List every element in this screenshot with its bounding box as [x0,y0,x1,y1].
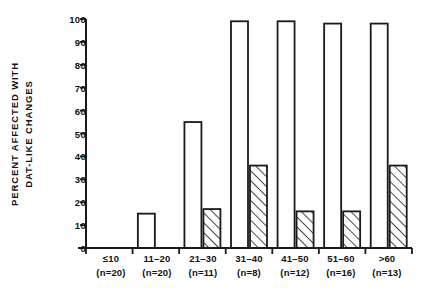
y-axis-tick-label: 50 [75,128,86,139]
x-axis-group-range: 11–20 [134,252,180,266]
y-axis-tick-label: 100 [69,14,86,25]
y-axis-tick-label: 90 [75,36,86,47]
x-axis-group-label: 21–30(n=11) [180,252,226,298]
y-axis-tick-label: 20 [75,197,86,208]
y-axis-tick-labels: 0102030405060708090100 [56,14,86,254]
bar-chart-figure: PERCENT AFFECTED WITH DAT-LIKE CHANGES 0… [0,0,424,298]
x-axis-group-range: >60 [364,252,410,266]
y-axis-tick-label: 70 [75,82,86,93]
bar-open [278,21,295,248]
x-axis-group-sample-size: (n=12) [272,266,318,280]
y-axis-tick-label: 80 [75,59,86,70]
x-axis-group-range: 31–40 [226,252,272,266]
bar-open [184,122,201,248]
bar-series-group [138,21,407,248]
x-axis-group-label: 41–50(n=12) [272,252,318,298]
x-axis-group-label: 11–20(n=20) [134,252,180,298]
x-axis-group-label: 51–60(n=16) [318,252,364,298]
x-axis-group-range: ≤10 [88,252,134,266]
y-axis-tick-label: 30 [75,174,86,185]
bar-open [371,24,388,248]
x-axis-group-label: 31–40(n=8) [226,252,272,298]
x-axis-group-sample-size: (n=8) [226,266,272,280]
x-axis-group-range: 51–60 [318,252,364,266]
bar-open [138,214,155,248]
y-axis-tick-label: 40 [75,151,86,162]
x-axis-group-sample-size: (n=16) [318,266,364,280]
x-axis-group-sample-size: (n=11) [180,266,226,280]
x-axis-group-sample-size: (n=13) [364,266,410,280]
y-axis-tick-label: 0 [80,243,86,254]
x-axis-group-label: >60(n=13) [364,252,410,298]
bar-open [324,24,341,248]
y-axis-tick-label: 10 [75,220,86,231]
x-axis-group-label: ≤10(n=20) [88,252,134,298]
x-axis-group-sample-size: (n=20) [134,266,180,280]
x-axis-group-range: 41–50 [272,252,318,266]
y-axis-tick-label: 60 [75,105,86,116]
bar-hatched [297,211,314,248]
bar-open [231,21,248,248]
bar-hatched [390,166,407,248]
bar-hatched [343,211,360,248]
bar-hatched [250,166,267,248]
x-axis-tick-labels: ≤10(n=20)11–20(n=20)21–30(n=11)31–40(n=8… [88,252,410,298]
x-axis-group-sample-size: (n=20) [88,266,134,280]
x-axis-group-range: 21–30 [180,252,226,266]
bar-hatched [203,209,220,248]
